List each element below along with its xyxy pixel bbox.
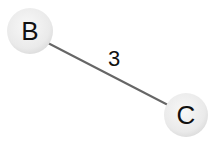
graph-diagram: 3 B C xyxy=(0,0,217,142)
node-b-label: B xyxy=(21,16,38,46)
node-b: B xyxy=(7,8,53,54)
edge-b-c xyxy=(46,42,168,105)
node-c-label: C xyxy=(177,100,196,130)
edge-weight-label: 3 xyxy=(108,46,120,71)
node-c: C xyxy=(164,93,208,137)
